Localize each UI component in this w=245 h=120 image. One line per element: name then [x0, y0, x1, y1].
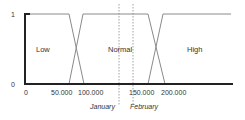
x-tick-0: 0 — [24, 89, 28, 96]
fuzzy-membership-chart: 1 0 0 50.000 100.000 150.000 200.000 Low… — [0, 0, 245, 120]
x-tick-200000: 200.000 — [161, 89, 186, 96]
x-tick-150000: 150.000 — [129, 89, 154, 96]
low-label: Low — [36, 45, 50, 54]
high-label: High — [187, 45, 202, 54]
y-tick-0: 0 — [11, 81, 15, 88]
y-tick-1: 1 — [11, 11, 15, 18]
x-tick-100000: 100.000 — [78, 89, 103, 96]
low-membership-line — [25, 14, 84, 84]
february-label: February — [130, 103, 159, 111]
x-tick-50000: 50.000 — [51, 89, 73, 96]
normal-label: Normal — [108, 45, 133, 54]
january-label: January — [89, 103, 115, 111]
